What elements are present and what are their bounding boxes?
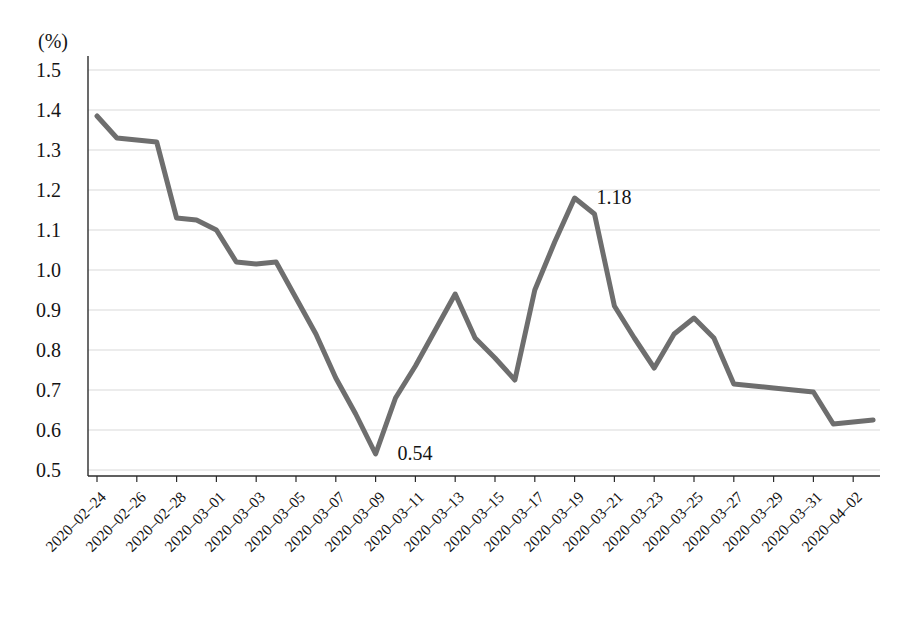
data-annotation-label: 1.18 — [597, 186, 632, 209]
y-tick-label: 1.4 — [36, 100, 84, 120]
y-tick-label: 0.6 — [36, 420, 84, 440]
y-tick-label: 1.1 — [36, 220, 84, 240]
data-series-line — [97, 116, 873, 454]
gridline-group — [88, 70, 880, 470]
axis-group — [88, 56, 880, 476]
plot-area — [0, 0, 906, 618]
y-tick-label: 0.7 — [36, 380, 84, 400]
y-tick-label: 1.0 — [36, 260, 84, 280]
y-tick-label: 0.5 — [36, 460, 84, 480]
y-tick-label: 1.5 — [36, 60, 84, 80]
y-tick-label: 1.3 — [36, 140, 84, 160]
x-tick-marks — [97, 476, 853, 482]
y-tick-label: 0.8 — [36, 340, 84, 360]
data-annotation-label: 0.54 — [398, 442, 433, 465]
y-tick-label: 1.2 — [36, 180, 84, 200]
y-tick-label: 0.9 — [36, 300, 84, 320]
line-chart: (%) 1.51.41.31.21.11.00.90.80.70.60.5 20… — [0, 0, 906, 618]
